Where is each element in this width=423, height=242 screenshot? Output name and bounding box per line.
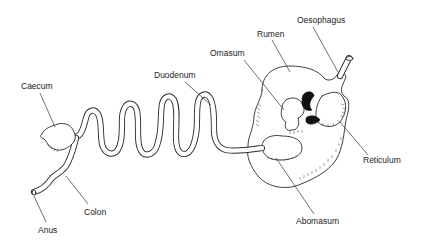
oesophagus-opening <box>346 57 353 61</box>
anus-opening <box>32 190 36 195</box>
label-colon: Colon <box>84 207 106 217</box>
label-oesophagus: Oesophagus <box>297 15 345 25</box>
ruminant-digestive-diagram: Oesophagus Rumen Omasum Reticulum Abomas… <box>0 0 423 242</box>
label-abomasum: Abomasum <box>296 216 339 226</box>
label-anus: Anus <box>38 225 57 235</box>
caecum-leader <box>40 93 55 127</box>
label-rumen: Rumen <box>257 29 285 39</box>
label-duodenum: Duodenum <box>154 70 196 80</box>
reticulum-leader <box>340 122 368 155</box>
intestine-tube <box>68 95 262 155</box>
colon-leader <box>66 176 88 204</box>
label-caecum: Caecum <box>21 81 53 91</box>
diagram-canvas: Oesophagus Rumen Omasum Reticulum Abomas… <box>0 0 423 242</box>
caecum-shape <box>41 123 76 150</box>
anus-leader <box>34 196 46 222</box>
label-reticulum: Reticulum <box>363 155 401 165</box>
label-omasum: Omasum <box>210 48 244 58</box>
oesophagus-leader <box>313 27 338 72</box>
